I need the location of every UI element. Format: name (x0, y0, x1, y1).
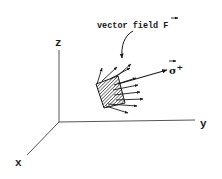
pointer-arrow-icon (122, 31, 133, 58)
normal-symbol: σ (169, 65, 176, 76)
y-axis (59, 120, 195, 122)
x-axis-label: x (15, 157, 22, 169)
svg-text:vector field F: vector field F (97, 21, 168, 31)
vector-field-label: vector field F (97, 18, 178, 31)
normal-superscript: + (176, 62, 183, 72)
y-axis-label: y (200, 118, 207, 130)
field-label-text: vector field (97, 21, 163, 31)
field-arrow-icon (116, 64, 131, 77)
x-axis (27, 122, 59, 155)
normal-arrow-icon (118, 70, 167, 84)
svg-text:σ+: σ+ (169, 62, 183, 76)
surface-flux-diagram: z y x vector field F σ+ (0, 0, 222, 179)
field-symbol: F (163, 21, 168, 31)
z-axis-label: z (55, 37, 62, 49)
surface-patch (96, 76, 125, 108)
field-arrow-icon (106, 106, 128, 113)
